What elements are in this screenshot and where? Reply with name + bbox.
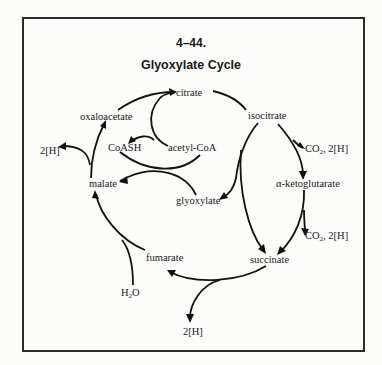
arrow-alphaketoglutarate-to-succinate (280, 190, 304, 252)
arrow-fumarate-to-malate (96, 194, 145, 250)
arrow-malate-2h-release (62, 146, 90, 165)
arrowhead-icon (92, 190, 99, 199)
metabolite-malate: malate (89, 179, 117, 190)
arrow-succinate-2h-release (190, 280, 220, 318)
side-input-water: H2O (121, 288, 140, 300)
arrow-acetylcoa-to-malate (120, 152, 200, 169)
arrow-citrate-to-isocitrate (213, 91, 246, 110)
metabolite-citrate: citrate (176, 88, 202, 99)
arrow-succinate-to-fumarate (170, 266, 266, 280)
arrow-isocitrate-to-succinate (240, 150, 263, 250)
metabolite-coash: CoASH (108, 143, 141, 154)
metabolite-glyoxylate: glyoxylate (176, 196, 220, 207)
metabolite-fumarate: fumarate (146, 253, 183, 264)
metabolite-succinate: succinate (250, 255, 289, 266)
arrow-acetylcoa-to-citrate (151, 93, 170, 146)
arrow-water-input (122, 240, 133, 285)
arrow-glyoxylate-to-malate (120, 171, 196, 195)
arrow-isocitrate-to-alphaketoglutarate (278, 124, 303, 175)
side-product-2h-succinate: 2[H] (183, 327, 203, 338)
side-product-co2-2h-ketoglutarate: CO2, 2[H] (305, 231, 348, 243)
side-product-co2-2h-isocitrate: CO2, 2[H] (305, 144, 348, 156)
metabolite-acetyl-coa: acetyl-CoA (168, 143, 216, 154)
arrowhead-icon (219, 192, 228, 200)
metabolite-isocitrate: isocitrate (248, 111, 286, 122)
arrow-malate-to-oxaloacetate (91, 124, 104, 178)
arrowhead-icon (186, 314, 194, 323)
metabolite-alpha-ketoglutarate: α-ketoglutarate (276, 179, 340, 190)
metabolite-oxaloacetate: oxaloacetate (80, 112, 132, 123)
side-product-2h-malate: 2[H] (40, 146, 60, 157)
